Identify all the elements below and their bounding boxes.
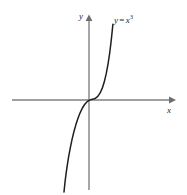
equation-equals-sign: = — [118, 15, 125, 25]
x-axis-arrowhead — [169, 96, 176, 103]
y-axis-label: y — [79, 12, 83, 21]
cubic-function-figure: y x y=x3 — [0, 0, 187, 195]
equation-exponent: 3 — [130, 14, 133, 20]
y-axis-arrowhead — [86, 15, 93, 22]
curve-equation-label: y=x3 — [114, 16, 133, 25]
x-axis-label: x — [167, 106, 171, 115]
plot-canvas — [0, 0, 187, 195]
